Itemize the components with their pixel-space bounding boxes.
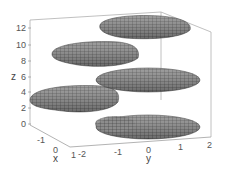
x-axis-label: x — [53, 153, 58, 164]
y-axis: -2 -1 0 1 2 y — [78, 140, 212, 164]
z-tick-0: 0 — [21, 119, 26, 129]
z-tick-4: 4 — [21, 87, 26, 97]
x-tick-1: 1 — [71, 150, 76, 160]
disc-layer-1 — [95, 115, 200, 139]
disc-layer-5 — [100, 15, 191, 38]
helicoid-surface — [30, 15, 200, 139]
z-tick-6: 6 — [21, 72, 26, 82]
z-tick-10: 10 — [16, 40, 26, 50]
z-tick-12: 12 — [16, 23, 26, 33]
z-axis-label: z — [11, 71, 16, 82]
disc-layer-3 — [96, 68, 200, 92]
y-tick-2: 2 — [207, 140, 212, 150]
surface-plot: 0 2 4 6 8 10 12 z -1 0 1 x -2 -1 0 1 2 y — [0, 0, 225, 174]
x-tick-neg1: -1 — [37, 135, 45, 145]
z-axis: 0 2 4 6 8 10 12 z — [11, 23, 31, 129]
disc-layer-2 — [30, 86, 119, 112]
z-tick-8: 8 — [21, 56, 26, 66]
y-axis-label: y — [146, 153, 151, 164]
y-tick-neg2: -2 — [78, 149, 86, 159]
y-tick-1: 1 — [178, 142, 183, 152]
z-tick-2: 2 — [21, 103, 26, 113]
y-tick-neg1: -1 — [114, 147, 122, 157]
disc-layer-4 — [52, 42, 138, 67]
